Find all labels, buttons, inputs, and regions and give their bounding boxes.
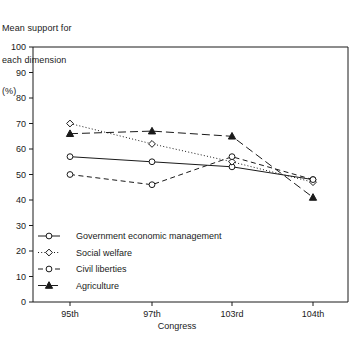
data-point-marker (46, 266, 52, 272)
data-point-marker (229, 154, 235, 160)
x-axis-tick-labels: 95th97th103rd104th (61, 309, 324, 319)
legend-item: Social welfare (38, 248, 132, 258)
legend-label: Agriculture (76, 281, 119, 291)
x-tick-label: 95th (61, 309, 79, 319)
y-tick-label: 20 (16, 246, 26, 256)
y-tick-label: 10 (16, 272, 26, 282)
chart-figure: Mean support for each dimension (%) 0102… (0, 0, 354, 338)
legend-item: Government economic management (38, 231, 222, 241)
data-point-marker (149, 182, 155, 188)
data-series (67, 154, 316, 183)
data-point-marker (46, 249, 53, 256)
y-tick-label: 70 (16, 119, 26, 129)
y-tick-label: 60 (16, 144, 26, 154)
x-tick-label: 97th (143, 309, 161, 319)
y-tick-label: 0 (21, 297, 26, 307)
y-axis-title-line-2: each dimension (2, 55, 72, 66)
legend-label: Government economic management (76, 231, 222, 241)
y-axis-title-line-1: Mean support for (2, 23, 72, 34)
series-line (70, 157, 313, 180)
legend-item: Civil liberties (38, 264, 127, 274)
legend-item: Agriculture (38, 281, 119, 291)
data-series-layer (66, 120, 316, 200)
data-series (67, 120, 317, 185)
x-tick-label: 104th (302, 309, 325, 319)
data-point-marker (148, 127, 155, 134)
y-tick-label: 50 (16, 170, 26, 180)
y-axis-title: Mean support for each dimension (%) (2, 2, 72, 118)
data-point-marker (67, 120, 74, 127)
data-point-marker (67, 154, 73, 160)
data-point-marker (46, 233, 52, 239)
y-tick-label: 40 (16, 195, 26, 205)
data-point-marker (309, 194, 316, 201)
data-point-marker (149, 141, 156, 148)
data-point-marker (149, 159, 155, 165)
y-tick-label: 30 (16, 221, 26, 231)
y-axis-title-line-3: (%) (2, 86, 72, 97)
data-point-marker (67, 172, 73, 178)
x-tick-label: 103rd (220, 309, 243, 319)
legend-label: Civil liberties (76, 264, 127, 274)
series-line (70, 157, 313, 185)
x-axis-title: Congress (0, 321, 354, 331)
chart-legend: Government economic managementSocial wel… (38, 231, 222, 291)
x-axis-tick-marks (70, 302, 313, 306)
data-point-marker (310, 177, 316, 183)
legend-label: Social welfare (76, 248, 132, 258)
